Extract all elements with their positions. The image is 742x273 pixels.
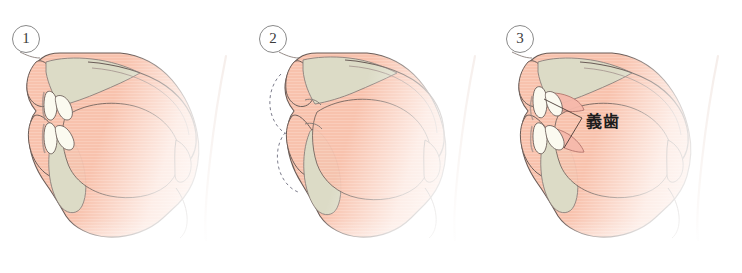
denture-callout-label: 義歯 [586,108,620,132]
panel-number-2: 2 [259,25,287,53]
bottom-fade-overlay [494,150,741,273]
bottom-fade-overlay [247,150,494,273]
figure-root: 1 [0,0,742,273]
panel-edentulous-collapsed: 2 [247,0,494,273]
panel-number-1: 1 [12,25,40,53]
panel-number-3: 3 [506,25,534,53]
bottom-fade-overlay [0,150,247,273]
panel-natural-dentition: 1 [0,0,247,273]
panel-denture-restored: 3 義歯 [494,0,741,273]
